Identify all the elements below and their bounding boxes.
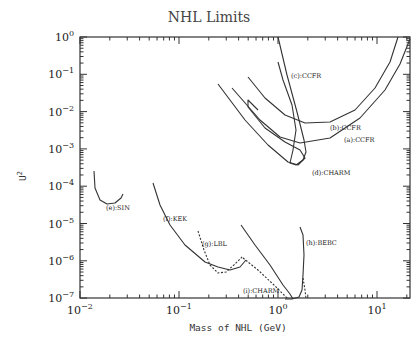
- curve--g-lbl: [198, 231, 243, 273]
- y-tick-labels: 10010−110−210−310−410−510−610−7: [48, 29, 74, 305]
- curve-label: (c):CCFR: [291, 72, 322, 80]
- y-tick-label: 10−7: [48, 290, 74, 305]
- curve-label: (g):LBL: [202, 240, 228, 248]
- curve-label: (a):CCFR: [344, 136, 376, 144]
- x-tick-labels: 10−210−1100101: [67, 302, 386, 317]
- nhl-limits-chart: NHL Limits 10010−110−210−310−410−510−610…: [0, 0, 418, 343]
- y-axis-label: U2: [16, 171, 28, 181]
- curve--e-sin: [94, 171, 123, 204]
- curve-label: (i):CHARM: [243, 287, 280, 295]
- y-tick-label: 10−6: [48, 253, 74, 268]
- x-tick-label: 101: [367, 302, 386, 317]
- curve-labels: (a):CCFR(b):CCFR(c):CCFR(d):CHARM(e):SIN…: [106, 72, 376, 295]
- curve-label: (b):CCFR: [330, 124, 362, 132]
- curve--b-ccfr: [248, 37, 398, 123]
- curve--f-kek: [153, 183, 246, 270]
- y-tick-label: 10−5: [48, 216, 74, 231]
- chart-title: NHL Limits: [168, 9, 251, 25]
- limit-curves: [94, 37, 410, 299]
- x-tick-label: 10−2: [67, 302, 93, 317]
- y-tick-label: 10−4: [48, 178, 74, 193]
- x-tick-label: 10−1: [166, 302, 192, 317]
- y-tick-label: 10−2: [48, 104, 74, 119]
- axis-ticks: [80, 37, 410, 298]
- curve--h-bebc: [285, 227, 304, 299]
- curve-label: (h):BEBC: [306, 239, 337, 247]
- y-tick-label: 10−3: [48, 141, 74, 156]
- y-tick-label: 10−1: [48, 66, 74, 81]
- curve-label: (e):SIN: [106, 204, 130, 212]
- y-tick-label: 100: [55, 29, 74, 44]
- curve--h-bebc-dotted: [303, 278, 306, 299]
- plot-frame: [80, 37, 410, 298]
- curve-label: (d):CHARM: [312, 169, 351, 177]
- x-axis-label: Mass of NHL (GeV): [189, 322, 286, 333]
- curve-label: (f):KEK: [163, 215, 187, 223]
- x-tick-label: 100: [268, 302, 287, 317]
